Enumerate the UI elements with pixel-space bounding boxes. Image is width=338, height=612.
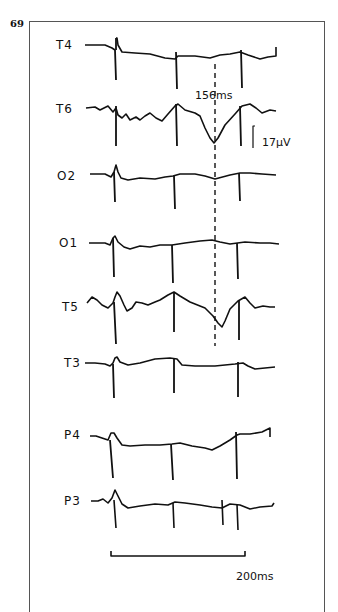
trace-p3	[91, 490, 274, 509]
trace-o1	[89, 236, 279, 249]
trace-o2	[90, 165, 276, 180]
trace-t4	[85, 38, 276, 59]
trace-p4	[90, 428, 270, 450]
time-scale-bar	[111, 551, 245, 556]
trace-t6	[86, 104, 276, 143]
